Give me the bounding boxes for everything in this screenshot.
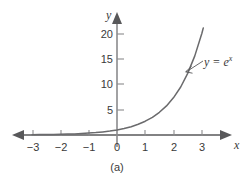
x-tick-label-1: 1	[138, 141, 152, 153]
curve-equation-label: y = ex	[204, 54, 232, 70]
x-tick-label-neg2: −2	[53, 141, 69, 153]
y-axis-ticks	[117, 34, 124, 110]
x-axis-left-arrowhead	[12, 130, 24, 140]
annotation-leader-line	[186, 61, 203, 72]
y-tick-label-20: 20	[94, 28, 113, 40]
x-axis-right-arrowhead	[220, 130, 232, 140]
x-tick-label-neg1: −1	[81, 141, 97, 153]
plot-canvas	[0, 0, 246, 181]
x-tick-label-2: 2	[167, 141, 181, 153]
exponential-function-figure: −3 −2 −1 0 1 2 3 5 10 15 20 y x y = ex (…	[0, 0, 246, 181]
y-tick-label-5: 5	[96, 104, 113, 116]
x-tick-label-0: 0	[110, 141, 124, 153]
y-tick-label-15: 15	[94, 53, 113, 65]
x-tick-label-neg3: −3	[25, 141, 41, 153]
y-axis-label: y	[106, 8, 111, 23]
x-axis-label: x	[234, 138, 239, 153]
y-tick-label-10: 10	[94, 78, 113, 90]
curve-equation-exponent: x	[229, 54, 233, 63]
y-axis-top-arrowhead	[112, 12, 122, 24]
curve-equation-base: y = e	[204, 55, 229, 69]
x-tick-label-3: 3	[195, 141, 209, 153]
figure-caption: (a)	[100, 161, 134, 173]
